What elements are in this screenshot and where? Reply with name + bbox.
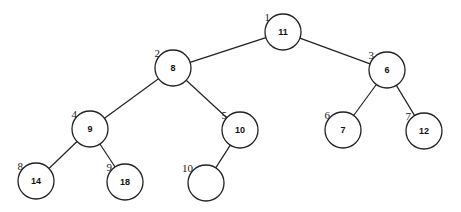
tree-node: 63 — [369, 49, 405, 88]
node-value: 12 — [419, 126, 429, 136]
node-value: 7 — [340, 125, 345, 135]
heap-tree-diagram: 1118263941057612714818910 — [0, 0, 461, 212]
node-value: 10 — [235, 125, 245, 135]
tree-node: 105 — [222, 109, 258, 148]
tree-nodes: 1118263941057612714818910 — [18, 11, 442, 201]
node-index-label: 2 — [155, 47, 161, 59]
tree-edges — [49, 38, 415, 169]
tree-node: 148 — [18, 160, 54, 199]
node-value: 9 — [87, 124, 92, 134]
node-index-label: 3 — [369, 49, 375, 61]
tree-edge — [105, 79, 159, 119]
tree-node: 76 — [325, 109, 361, 148]
node-index-label: 9 — [107, 161, 113, 173]
tree-edge — [354, 85, 377, 116]
node-value: 18 — [120, 177, 130, 187]
node-circle — [188, 165, 224, 201]
node-index-label: 1 — [265, 11, 271, 23]
tree-node: 127 — [406, 110, 442, 149]
node-index-label: 4 — [72, 108, 78, 120]
node-index-label: 8 — [18, 160, 24, 172]
node-index-label: 5 — [222, 109, 228, 121]
tree-edge — [300, 38, 370, 64]
tree-node: 189 — [107, 161, 143, 200]
tree-edge — [49, 141, 77, 168]
node-value: 8 — [170, 63, 175, 73]
node-value: 6 — [384, 65, 389, 75]
node-value: 14 — [31, 176, 41, 186]
tree-edge — [216, 145, 231, 168]
node-index-label: 10 — [182, 162, 194, 174]
tree-node: 111 — [265, 11, 301, 50]
tree-edge — [190, 38, 266, 63]
node-index-label: 7 — [406, 110, 412, 122]
node-value: 11 — [278, 27, 288, 37]
tree-node: 82 — [155, 47, 191, 86]
tree-node: 94 — [72, 108, 108, 147]
node-index-label: 6 — [325, 109, 331, 121]
tree-node: 10 — [182, 162, 224, 201]
